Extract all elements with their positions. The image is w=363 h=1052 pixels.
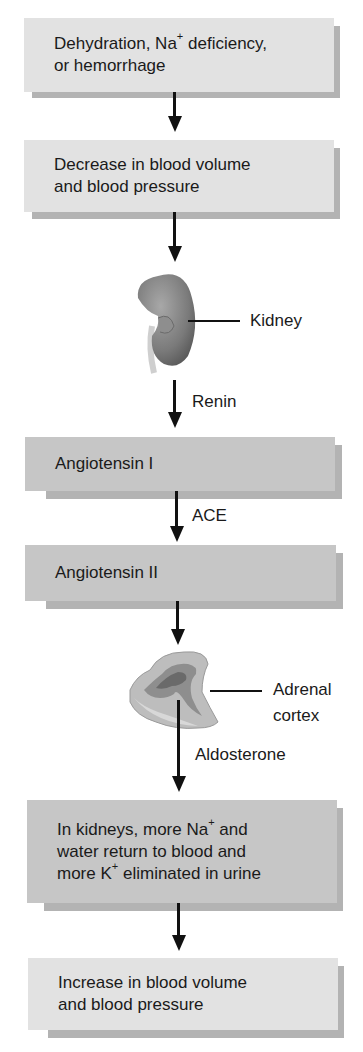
adrenal-leader-line: [210, 690, 262, 692]
kidney-icon: [130, 268, 210, 378]
adrenal-label-line2: cortex: [273, 705, 319, 727]
box-kidney-effect: In kidneys, more Na+ and water return to…: [27, 800, 337, 903]
arrowhead-icon: [172, 776, 186, 792]
arrowhead-icon: [171, 629, 185, 645]
adrenal-label-line1: Adrenal: [273, 679, 332, 701]
arrowhead-icon: [168, 246, 182, 262]
kidney-label: Kidney: [250, 310, 302, 332]
box-angiotensin-1: Angiotensin I: [25, 437, 335, 491]
arrow-6: [177, 903, 180, 939]
renin-label: Renin: [192, 391, 236, 413]
arrow-aldosterone: [177, 700, 180, 778]
arrowhead-icon: [172, 935, 186, 951]
arrow-renin: [173, 380, 176, 416]
arrow-2: [173, 212, 176, 250]
aldosterone-label: Aldosterone: [195, 744, 286, 766]
ace-label: ACE: [192, 505, 227, 527]
box-angiotensin-2: Angiotensin II: [25, 545, 336, 601]
arrow-ace: [175, 491, 178, 529]
kidney-leader-line: [188, 320, 240, 322]
box-increase: Increase in blood volume and blood press…: [28, 958, 338, 1030]
box-decrease: Decrease in blood volume and blood press…: [24, 140, 334, 212]
box-dehydration: Dehydration, Na+ deficiency, or hemorrha…: [24, 18, 334, 92]
arrowhead-icon: [168, 116, 182, 132]
arrowhead-icon: [170, 526, 184, 542]
arrowhead-icon: [168, 412, 182, 428]
